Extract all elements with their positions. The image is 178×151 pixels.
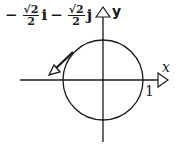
sign-2: − xyxy=(50,8,63,23)
sign-1: − xyxy=(5,8,18,23)
y-axis-label: y xyxy=(112,4,121,18)
y-axis-arrowhead-icon xyxy=(96,7,110,17)
fraction-2: √2 2 xyxy=(68,4,85,27)
fraction-2-denominator: 2 xyxy=(72,16,80,27)
x-axis-label: x xyxy=(162,60,170,74)
tick-label-one: 1 xyxy=(145,84,154,98)
fraction-1: √2 2 xyxy=(23,4,40,27)
unit-vector-i: i xyxy=(41,8,47,23)
fraction-1-denominator: 2 xyxy=(27,16,35,27)
vector-label: − √2 2 i − √2 2 j xyxy=(2,4,92,27)
unit-vector-j: j xyxy=(87,8,92,23)
x-axis-arrowhead-icon xyxy=(158,73,168,87)
